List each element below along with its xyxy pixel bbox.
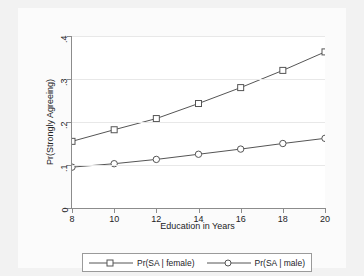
circle-marker bbox=[280, 140, 286, 146]
square-marker-key-icon bbox=[89, 257, 133, 269]
grid-line bbox=[72, 79, 325, 80]
grid-line bbox=[72, 36, 325, 37]
circle-marker bbox=[195, 151, 201, 157]
legend-label-male: Pr(SA | male) bbox=[255, 258, 305, 268]
y-axis-tick-label: 0 bbox=[61, 208, 70, 213]
series-line bbox=[72, 52, 325, 141]
grid-line bbox=[72, 122, 325, 123]
circle-marker-key-icon bbox=[207, 257, 251, 269]
y-axis-tick-label: .1 bbox=[61, 165, 70, 173]
x-axis-title: Education in Years bbox=[71, 221, 324, 231]
legend-entry-female[interactable]: Pr(SA | female) bbox=[89, 257, 194, 269]
x-axis-tick bbox=[114, 208, 115, 213]
y-axis-title-label: Pr(Strongly Agreeing) bbox=[45, 79, 55, 165]
square-marker bbox=[72, 138, 75, 144]
chart-figure: Pr(Strongly Agreeing) 0.1.2.3.4810121416… bbox=[0, 0, 364, 276]
y-axis-tick-label: .3 bbox=[61, 79, 70, 87]
chart-legend: Pr(SA | female) Pr(SA | male) bbox=[82, 253, 312, 272]
grid-line bbox=[72, 165, 325, 166]
circle-marker bbox=[153, 156, 159, 162]
square-marker bbox=[238, 85, 244, 91]
circle-marker bbox=[237, 146, 243, 152]
square-marker bbox=[280, 67, 286, 73]
legend-entry-male[interactable]: Pr(SA | male) bbox=[207, 257, 305, 269]
y-axis-tick-label: .2 bbox=[61, 122, 70, 130]
square-marker bbox=[196, 101, 202, 107]
x-axis-tick bbox=[72, 208, 73, 213]
graph-region: Pr(Strongly Agreeing) 0.1.2.3.4810121416… bbox=[18, 8, 346, 268]
circle-marker bbox=[322, 135, 325, 141]
x-axis-tick bbox=[156, 208, 157, 213]
square-marker bbox=[153, 116, 159, 122]
y-axis-tick-label: .4 bbox=[61, 36, 70, 44]
legend-label-female: Pr(SA | female) bbox=[137, 258, 194, 268]
plot-area: 0.1.2.3.48101214161820 bbox=[71, 36, 325, 209]
x-axis-tick bbox=[199, 208, 200, 213]
square-marker bbox=[322, 49, 325, 55]
square-marker bbox=[111, 127, 117, 133]
x-axis-tick bbox=[241, 208, 242, 213]
y-axis-title: Pr(Strongly Agreeing) bbox=[44, 36, 56, 208]
x-axis-tick bbox=[325, 208, 326, 213]
x-axis-tick bbox=[283, 208, 284, 213]
